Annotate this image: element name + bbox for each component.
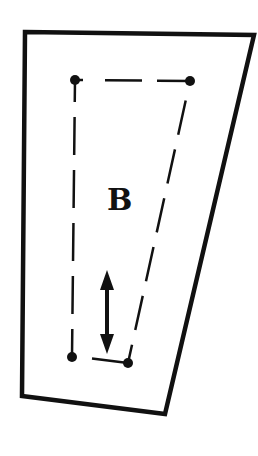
corner-dot-bottom-right (123, 358, 133, 368)
inner-dashed-outline (72, 80, 190, 363)
outer-outline (22, 32, 254, 414)
grainline-double-arrow-icon (100, 270, 114, 354)
corner-dot-bottom-left (67, 352, 77, 362)
corner-dot-top-left (70, 75, 80, 85)
piece-label: B (107, 185, 132, 215)
pattern-piece-diagram (0, 0, 258, 456)
corner-dot-top-right (185, 76, 195, 86)
